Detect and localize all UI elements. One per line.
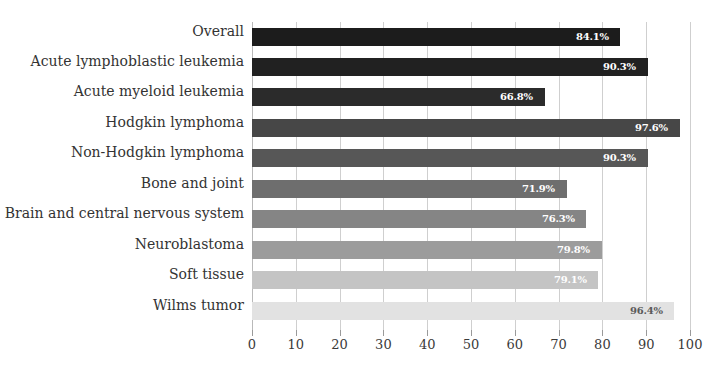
bar-row: 79.8% xyxy=(252,235,690,265)
tick-80 xyxy=(602,330,603,336)
bar-value-neuroblastoma: 79.8% xyxy=(557,241,590,259)
category-label-neuroblastoma: Neuroblastoma xyxy=(4,235,244,253)
bar-row: 79.1% xyxy=(252,265,690,295)
gridline-100 xyxy=(690,22,691,330)
bar-overall xyxy=(252,28,620,46)
tick-10 xyxy=(296,330,297,336)
bar-acute-lymphoblastic-leukemia xyxy=(252,58,648,76)
bar-chart: Overall Acute lymphoblastic leukemia Acu… xyxy=(0,0,717,378)
category-axis: Overall Acute lymphoblastic leukemia Acu… xyxy=(0,22,244,330)
bar-row: 84.1% xyxy=(252,22,690,52)
tick-label-30: 30 xyxy=(375,338,392,352)
bar-wilms-tumor xyxy=(252,302,674,320)
bar-value-hodgkin-lymphoma: 97.6% xyxy=(635,119,668,137)
bar-row: 96.4% xyxy=(252,296,690,326)
category-label-wilms-tumor: Wilms tumor xyxy=(4,296,244,314)
tick-label-60: 60 xyxy=(507,338,524,352)
bar-bone-and-joint xyxy=(252,180,567,198)
category-label-soft-tissue: Soft tissue xyxy=(4,265,244,283)
tick-label-0: 0 xyxy=(248,338,256,352)
bar-row: 90.3% xyxy=(252,52,690,82)
category-label-non-hodgkin-lymphoma: Non-Hodgkin lymphoma xyxy=(4,143,244,161)
bar-row: 90.3% xyxy=(252,143,690,173)
bar-brain-and-central-nervous-system xyxy=(252,210,586,228)
bar-neuroblastoma xyxy=(252,241,602,259)
category-label-hodgkin-lymphoma: Hodgkin lymphoma xyxy=(4,113,244,131)
tick-label-80: 80 xyxy=(594,338,611,352)
tick-label-20: 20 xyxy=(331,338,348,352)
bar-row: 97.6% xyxy=(252,113,690,143)
bar-row: 71.9% xyxy=(252,174,690,204)
tick-60 xyxy=(515,330,516,336)
tick-90 xyxy=(646,330,647,336)
bar-value-soft-tissue: 79.1% xyxy=(554,271,587,289)
bar-value-brain-and-central-nervous-system: 76.3% xyxy=(542,210,575,228)
tick-label-100: 100 xyxy=(678,338,703,352)
tick-30 xyxy=(383,330,384,336)
plot-area: 84.1% 90.3% 66.8% 97.6% 90.3% 71.9% 76.3… xyxy=(252,22,690,330)
tick-label-40: 40 xyxy=(419,338,436,352)
tick-0 xyxy=(252,330,253,336)
bar-value-overall: 84.1% xyxy=(576,28,609,46)
bar-value-acute-myeloid-leukemia: 66.8% xyxy=(500,88,533,106)
bar-hodgkin-lymphoma xyxy=(252,119,680,137)
tick-50 xyxy=(471,330,472,336)
category-label-overall: Overall xyxy=(4,22,244,40)
category-label-acute-myeloid-leukemia: Acute myeloid leukemia xyxy=(4,82,244,100)
tick-label-90: 90 xyxy=(638,338,655,352)
bar-value-wilms-tumor: 96.4% xyxy=(630,302,663,320)
bar-value-non-hodgkin-lymphoma: 90.3% xyxy=(603,149,636,167)
bar-value-acute-lymphoblastic-leukemia: 90.3% xyxy=(603,58,636,76)
category-label-brain-and-central-nervous-system: Brain and central nervous system xyxy=(4,204,244,222)
bar-row: 66.8% xyxy=(252,82,690,112)
tick-100 xyxy=(690,330,691,336)
tick-70 xyxy=(559,330,560,336)
bar-value-bone-and-joint: 71.9% xyxy=(522,180,555,198)
category-label-bone-and-joint: Bone and joint xyxy=(4,174,244,192)
tick-label-50: 50 xyxy=(463,338,480,352)
tick-label-70: 70 xyxy=(550,338,567,352)
bar-soft-tissue xyxy=(252,271,598,289)
bar-row: 76.3% xyxy=(252,204,690,234)
category-label-acute-lymphoblastic-leukemia: Acute lymphoblastic leukemia xyxy=(4,52,244,70)
tick-20 xyxy=(340,330,341,336)
bar-non-hodgkin-lymphoma xyxy=(252,149,648,167)
tick-label-10: 10 xyxy=(288,338,305,352)
tick-40 xyxy=(427,330,428,336)
